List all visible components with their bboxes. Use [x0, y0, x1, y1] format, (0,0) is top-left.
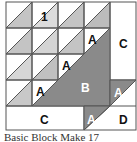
quilt-block-diagram: 1 A A A B C A C A D — [0, 0, 137, 131]
label-d: D — [119, 113, 128, 127]
caption: Basic Block Make 17 — [4, 131, 99, 142]
label-a-2: A — [62, 59, 71, 73]
label-a-1: A — [88, 33, 97, 47]
label-c-right: C — [119, 37, 128, 51]
label-c-bottom: C — [40, 113, 49, 127]
label-a-4: A — [114, 86, 123, 100]
label-a-3: A — [36, 85, 45, 99]
label-b: B — [81, 81, 90, 95]
label-a-5: A — [87, 113, 96, 127]
label-unit-1: 1 — [41, 10, 48, 24]
